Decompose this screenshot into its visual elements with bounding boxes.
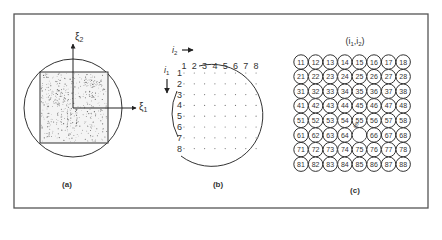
speckle-dot	[101, 114, 102, 115]
speckle-dot	[67, 109, 68, 110]
speckle-dot	[61, 95, 62, 96]
speckle-dot	[61, 130, 62, 131]
speckle-dot	[42, 95, 43, 96]
speckle-dot	[88, 133, 89, 134]
cell-label: 37	[385, 88, 393, 95]
cell-label: 54	[341, 117, 349, 124]
speckle-dot	[80, 97, 81, 98]
speckle-dot	[45, 74, 46, 75]
sample-dot	[214, 105, 215, 106]
speckle-dot	[70, 79, 71, 80]
speckle-dot	[48, 93, 49, 94]
speckle-dot	[68, 135, 69, 136]
speckle-dot	[95, 95, 96, 96]
speckle-dot	[66, 92, 67, 93]
speckle-dot	[63, 88, 64, 89]
cell-label: 88	[399, 161, 407, 168]
speckle-dot	[47, 123, 48, 124]
cell-label: 61	[297, 132, 305, 139]
sample-dot	[214, 116, 215, 117]
speckle-dot	[78, 106, 79, 107]
speckle-dot	[96, 85, 97, 86]
subaperture-cell: 74	[338, 142, 352, 156]
speckle-dot	[88, 113, 89, 114]
speckle-dot	[99, 102, 100, 103]
subaperture-cell: 66	[367, 128, 381, 142]
speckle-dot	[47, 77, 48, 78]
panel-c: (i1,i2) 11121314151617182122232425262728…	[294, 36, 411, 195]
subaperture-cell: 76	[367, 142, 381, 156]
speckle-dot	[102, 140, 103, 141]
speckle-dot	[100, 91, 101, 92]
row-label: 3	[177, 90, 182, 100]
speckle-dot	[64, 109, 65, 110]
sample-dot	[235, 116, 236, 117]
sample-dot	[194, 148, 195, 149]
cell-label: 83	[326, 161, 334, 168]
speckle-dot	[91, 87, 92, 88]
cell-label: 41	[297, 102, 305, 109]
speckle-dot	[85, 84, 86, 85]
speckle-dot	[83, 105, 84, 106]
sample-dot	[194, 137, 195, 138]
speckle-dot	[102, 123, 103, 124]
subaperture-cell: 21	[294, 69, 308, 83]
sample-dot	[225, 83, 226, 84]
cell-label: 87	[385, 161, 393, 168]
speckle-dot	[48, 87, 49, 88]
speckle-dot	[57, 90, 58, 91]
row-label: 7	[177, 133, 182, 143]
subaperture-cell: 83	[323, 157, 337, 171]
subaperture-cell: 52	[308, 113, 322, 127]
speckle-dot	[101, 81, 102, 82]
subaperture-cell: 73	[323, 142, 337, 156]
speckle-dot	[49, 99, 50, 100]
speckle-dot	[71, 114, 72, 115]
sample-dot	[194, 116, 195, 117]
sample-dot	[183, 72, 184, 73]
subaperture-cell: 87	[381, 157, 395, 171]
speckle-dot	[61, 115, 62, 116]
pupil-circle	[181, 64, 263, 166]
speckle-dot	[92, 96, 93, 97]
cell-label: 58	[399, 117, 407, 124]
sample-dot	[256, 72, 257, 73]
speckle-dot	[48, 121, 49, 122]
sample-dot	[225, 148, 226, 149]
speckle-dot	[94, 83, 95, 84]
speckle-dot	[48, 97, 49, 98]
speckle-dot	[100, 109, 101, 110]
cell-label: 82	[312, 161, 320, 168]
speckle-dot	[62, 111, 63, 112]
speckle-dot	[58, 74, 59, 75]
row-label: 1	[177, 68, 182, 78]
speckle-dot	[92, 76, 93, 77]
subaperture-cell: 27	[381, 69, 395, 83]
speckle-dot	[67, 103, 68, 104]
speckle-dot	[76, 83, 77, 84]
speckle-dot	[102, 99, 103, 100]
speckle-dot	[56, 100, 57, 101]
speckle-dot	[67, 124, 68, 125]
speckle-dot	[60, 93, 61, 94]
speckle-dot	[44, 137, 45, 138]
subaperture-cell: 81	[294, 157, 308, 171]
speckle-dot	[76, 94, 77, 95]
speckle-dot	[66, 89, 67, 90]
subaperture-cell: 13	[323, 55, 337, 69]
index-title: (i1,i2)	[345, 36, 364, 47]
speckle-dot	[65, 78, 66, 79]
cell-label: 45	[356, 102, 364, 109]
speckle-dot	[70, 133, 71, 134]
speckle-dot	[74, 130, 75, 131]
sample-dot	[256, 137, 257, 138]
column-label: 5	[223, 61, 228, 71]
cell-label: 77	[385, 146, 393, 153]
column-label: 2	[192, 61, 197, 71]
speckle-dot	[51, 114, 52, 115]
speckle-dot	[59, 83, 60, 84]
speckle-dot	[78, 87, 79, 88]
cell-label: 18	[399, 59, 407, 66]
speckle-dot	[49, 136, 50, 137]
column-labels: 12345678	[181, 61, 258, 71]
